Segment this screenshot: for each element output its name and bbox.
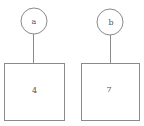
box-value-b: 7 <box>106 85 111 94</box>
circle-label-a: a <box>32 17 37 26</box>
diagram-canvas: a 4 b 7 <box>0 0 144 126</box>
box-value-a: 4 <box>32 86 37 95</box>
node-group-a: a 4 <box>5 8 65 121</box>
circle-label-b: b <box>108 18 113 27</box>
node-group-b: b 7 <box>82 9 140 121</box>
